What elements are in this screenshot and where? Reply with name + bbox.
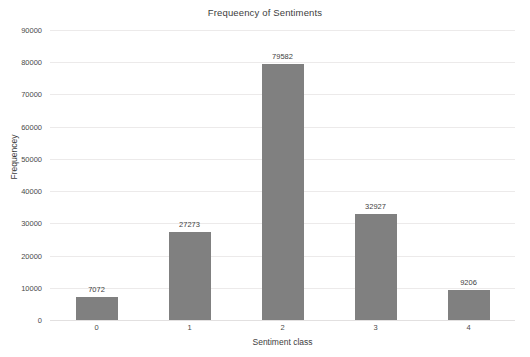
- bar-slot: 79582: [262, 30, 304, 320]
- bar-value-label: 32927: [355, 202, 397, 211]
- y-axis-tick-label: 70000: [21, 90, 42, 99]
- y-axis-tick-labels: 0100002000030000400005000060000700008000…: [0, 30, 46, 320]
- bar-value-label: 27273: [169, 220, 211, 229]
- x-axis-tick-label: 3: [356, 323, 396, 332]
- bar-value-label: 7072: [76, 285, 118, 294]
- x-axis-tick-label: 1: [170, 323, 210, 332]
- y-axis-tick-label: 60000: [21, 122, 42, 131]
- y-axis-tick-label: 80000: [21, 58, 42, 67]
- y-axis-tick-label: 50000: [21, 154, 42, 163]
- gridline: [50, 320, 515, 321]
- y-axis-tick-label: 20000: [21, 251, 42, 260]
- bar[interactable]: [355, 214, 397, 320]
- plot-area: 70722727379582329279206: [50, 30, 515, 320]
- bar-slot: 32927: [355, 30, 397, 320]
- bar[interactable]: [448, 290, 490, 320]
- bar-slot: 9206: [448, 30, 490, 320]
- bar[interactable]: [169, 232, 211, 320]
- x-axis-tick-label: 0: [77, 323, 117, 332]
- bar-value-label: 79582: [262, 52, 304, 61]
- bar-value-label: 9206: [448, 278, 490, 287]
- bar-slot: 27273: [169, 30, 211, 320]
- x-axis-tick-label: 4: [449, 323, 489, 332]
- y-axis-tick-label: 30000: [21, 219, 42, 228]
- bar[interactable]: [76, 297, 118, 320]
- bar-slot: 7072: [76, 30, 118, 320]
- chart-title: Frequeency of Sentiments: [0, 7, 530, 18]
- y-axis-tick-label: 40000: [21, 187, 42, 196]
- x-axis-title: Sentiment class: [50, 337, 515, 347]
- y-axis-tick-label: 90000: [21, 26, 42, 35]
- x-axis-tick-label: 2: [263, 323, 303, 332]
- y-axis-tick-label: 10000: [21, 283, 42, 292]
- x-axis-tick-labels: 01234: [50, 323, 515, 337]
- y-axis-tick-label: 0: [38, 316, 42, 325]
- bar-chart: Frequeency of Sentiments Frequencey 0100…: [0, 0, 530, 357]
- bar[interactable]: [262, 64, 304, 320]
